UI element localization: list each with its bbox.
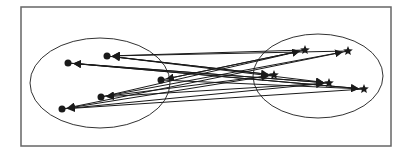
diagram-canvas [0, 0, 420, 154]
edge-arrow [107, 75, 274, 96]
cluster-ellipse-left [30, 38, 170, 128]
dot-node-icon [59, 106, 66, 113]
edge-arrow [101, 52, 342, 97]
star-node-icon [300, 45, 310, 54]
star-node-icon [269, 70, 279, 79]
dot-node-icon [65, 60, 72, 67]
edge-arrow [62, 76, 268, 109]
dot-node-icon [158, 77, 165, 84]
star-node-icon [359, 84, 369, 93]
dot-node-icon [104, 53, 111, 60]
edge-arrow [113, 51, 348, 56]
star-node-icon [343, 46, 353, 55]
dot-node-icon [98, 94, 105, 101]
